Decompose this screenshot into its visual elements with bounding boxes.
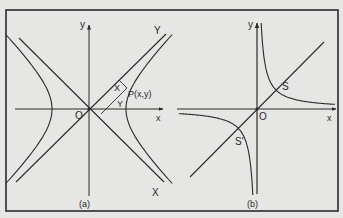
panel-a-asymptote-X [19, 38, 164, 182]
panel-a-proj-X-label: X [114, 83, 120, 93]
panel-a-rotated-X-label: X [152, 187, 159, 198]
panel-a [6, 25, 172, 196]
panel-a-origin-label: O [75, 110, 83, 121]
panel-a-projection-to-Y [119, 80, 127, 88]
panel-a-rotated-Y-label: Y [154, 25, 161, 36]
panel-a-caption: (a) [79, 199, 90, 209]
panel-a-y-label: y [80, 19, 85, 30]
panel-b-vertex-S-label: S [282, 81, 289, 92]
figure-frame [6, 10, 338, 211]
panel-a-point-label: P(x,y) [128, 89, 152, 99]
panel-b-labels: y x O S S' (b) [235, 19, 332, 209]
panel-b-origin-label: O [259, 111, 267, 122]
panel-b [177, 23, 336, 195]
panel-b-caption: (b) [247, 199, 258, 209]
panel-b-hyperbola-third-quadrant [179, 114, 253, 195]
panel-a-labels: y x O Y X P(x,y) X Y (a) [75, 19, 161, 209]
panel-b-hyperbola-first-quadrant [261, 23, 335, 104]
panel-a-proj-Y-label: Y [117, 99, 123, 109]
panel-a-x-label: x [156, 113, 161, 123]
panel-a-asymptote-Y [16, 34, 166, 182]
panel-b-x-label: x [327, 113, 332, 123]
panel-a-origin-dot [87, 107, 90, 110]
panel-b-vertex-S-prime-label: S' [235, 136, 244, 147]
panel-b-y-label: y [248, 19, 253, 30]
hyperbola-figure: y x O Y X P(x,y) X Y (a) y x O S S' (b) [0, 0, 343, 218]
